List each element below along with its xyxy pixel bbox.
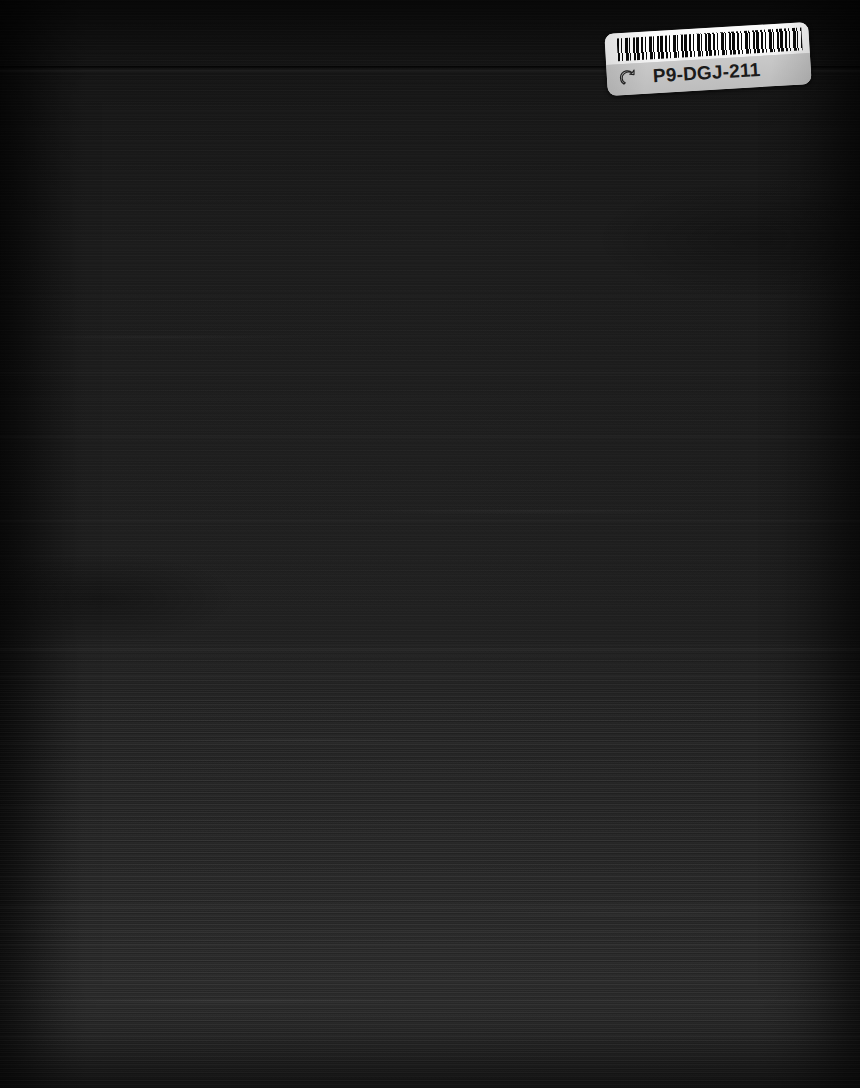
barcode-label[interactable]: P9-DGJ-211	[604, 22, 811, 96]
cover-vignette	[0, 0, 860, 1088]
pointing-hand-icon	[616, 66, 641, 87]
scanned-cover-page: P9-DGJ-211	[0, 0, 860, 1088]
